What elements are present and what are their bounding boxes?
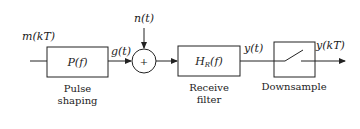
switch-icon — [285, 50, 303, 61]
block-diagram: m(kT) P(f) Pulse shaping g(t) + n(t) HR(… — [0, 0, 360, 129]
output-signal-label: y(kT) — [315, 39, 345, 52]
downsample-caption: Downsample — [261, 81, 326, 92]
receive-filter-symbol: HR(f) — [194, 55, 223, 69]
noise-signal-label: n(t) — [134, 12, 154, 25]
pulse-shaping-caption-2: shaping — [58, 95, 99, 106]
g-signal-label: g(t) — [111, 45, 131, 58]
receive-filter-caption-2: filter — [197, 94, 222, 105]
input-signal-label: m(kT) — [22, 30, 55, 43]
receive-filter-caption-1: Receive — [189, 82, 229, 93]
adder-plus-icon: + — [140, 56, 148, 67]
pulse-shaping-caption-1: Pulse — [64, 83, 91, 94]
y-signal-label: y(t) — [243, 42, 263, 55]
downsample-block — [274, 42, 315, 77]
pulse-shaping-symbol: P(f) — [66, 56, 87, 69]
